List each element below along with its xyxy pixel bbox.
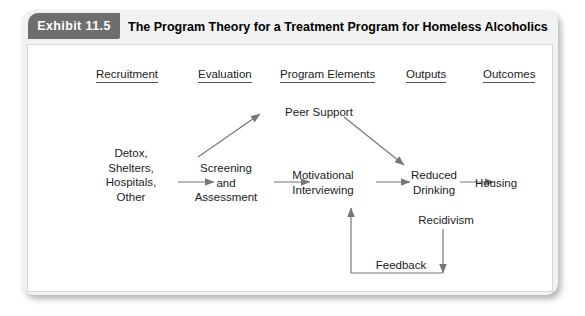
- column-header-outcomes: Outcomes: [483, 67, 535, 83]
- arrow-peer-support-to-reduced-drinking: [344, 117, 404, 165]
- exhibit-title: The Program Theory for a Treatment Progr…: [128, 17, 528, 37]
- node-housing: Housing: [466, 176, 526, 191]
- node-feedback: Feedback: [368, 258, 434, 273]
- exhibit-number-badge: Exhibit 11.5: [28, 13, 120, 39]
- node-peer-support: Peer Support: [276, 105, 362, 120]
- column-header-program-elements: Program Elements: [280, 67, 375, 83]
- column-header-evaluation: Evaluation: [198, 67, 252, 83]
- node-intake: Detox, Shelters, Hospitals, Other: [88, 146, 174, 204]
- node-screening-and-assessment: Screening and Assessment: [184, 161, 268, 205]
- exhibit-figure: Exhibit 11.5 The Program Theory for a Tr…: [0, 0, 585, 316]
- arrow-screening-to-peer-support: [198, 114, 260, 157]
- column-header-outputs: Outputs: [406, 67, 446, 83]
- node-motivational-interviewing: Motivational Interviewing: [280, 168, 366, 197]
- node-reduced-drinking: Reduced Drinking: [398, 168, 470, 197]
- diagram-panel: Recruitment Evaluation Program Elements …: [27, 44, 553, 292]
- node-recidivism: Recidivism: [411, 213, 481, 228]
- column-header-recruitment: Recruitment: [96, 67, 158, 83]
